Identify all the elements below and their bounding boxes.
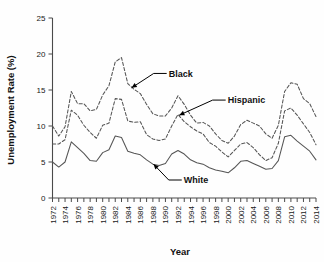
x-tick-label: 2000	[224, 205, 233, 223]
x-tick-label: 1988	[149, 205, 158, 223]
x-tick-label: 2002	[237, 205, 246, 223]
annotation-label-black: Black	[169, 69, 194, 79]
x-tick-label: 2004	[249, 205, 258, 223]
x-tick-label: 1986	[136, 205, 145, 223]
y-tick-label: 10	[37, 122, 46, 131]
chart-figure: 0510152025 19721974197619781980198219841…	[0, 0, 324, 262]
x-tick-label: 1976	[74, 205, 83, 223]
x-tick-label: 1982	[111, 205, 120, 223]
x-tick-label: 1984	[124, 205, 133, 223]
x-tick-label: 2008	[274, 205, 283, 223]
x-tick-label: 2006	[262, 205, 271, 223]
x-tick-label: 2010	[287, 205, 296, 223]
x-tick-label: 1998	[212, 205, 221, 223]
x-tick-label: 2014	[312, 205, 321, 223]
x-tick-label: 1992	[174, 205, 183, 223]
y-tick-label: 20	[37, 50, 46, 59]
x-tick-label: 1994	[187, 205, 196, 223]
x-tick-label: 2012	[299, 205, 308, 223]
x-tick-label: 1978	[86, 205, 95, 223]
x-axis-title: Year	[170, 246, 190, 257]
x-tick-label: 1996	[199, 205, 208, 223]
y-tick-label: 0	[41, 194, 46, 203]
x-tick-label: 1980	[99, 205, 108, 223]
x-tick-label: 1972	[49, 205, 58, 223]
unemployment-rate-line-chart: 0510152025 19721974197619781980198219841…	[0, 0, 324, 262]
x-tick-label: 1990	[161, 205, 170, 223]
y-tick-label: 25	[37, 14, 46, 23]
y-tick-label: 5	[41, 158, 46, 167]
annotation-label-hispanic: Hispanic	[228, 95, 266, 105]
y-tick-label: 15	[37, 86, 46, 95]
y-axis-title: Unemployment Rate (%)	[5, 55, 16, 164]
x-tick-label: 1974	[61, 205, 70, 223]
annotation-label-white: White	[184, 175, 209, 185]
